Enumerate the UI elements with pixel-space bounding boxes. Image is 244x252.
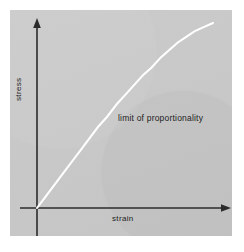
y-axis-label-stress: stress [14, 78, 23, 101]
x-axis-arrowhead-icon [221, 204, 231, 212]
stress-strain-figure: limit of proportionality stress strain [0, 0, 244, 252]
plot-axes-and-curve [10, 10, 232, 236]
plot-panel: limit of proportionality [10, 10, 232, 236]
limit-of-proportionality-annotation: limit of proportionality [118, 113, 203, 123]
x-axis-label-strain: strain [112, 214, 134, 223]
y-axis-arrowhead-icon [33, 18, 41, 28]
